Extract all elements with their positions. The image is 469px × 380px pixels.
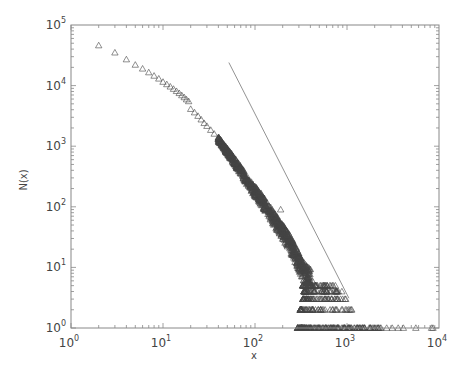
y-axis-label: N(x) [18,169,29,190]
data-point-triangle [123,56,129,62]
tick-label: 103 [46,137,66,153]
tick-label: 101 [151,334,171,350]
tick-label: 100 [59,334,79,350]
tick-label: 104 [46,77,66,93]
data-point-triangle [139,66,145,72]
y-axis-tick-labels: 100101102103104105 [46,16,66,335]
tick-label: 105 [46,16,66,32]
data-point-triangle [201,120,207,126]
data-point-triangle [167,83,173,89]
data-point-triangle [208,127,214,133]
data-point-triangle [112,49,118,55]
data-point-triangle [187,106,193,112]
data-point-triangle [191,109,197,115]
x-axis-tick-labels: 100101102103104 [59,334,447,350]
x-axis-label: x [251,350,257,361]
tick-label: 101 [46,258,66,274]
data-point-triangle [183,96,189,102]
tick-label: 102 [46,198,66,214]
log-log-scatter-chart: 100101102103104 100101102103104105 x N(x… [0,0,469,380]
tick-label: 103 [335,334,355,350]
data-point-triangle [277,206,283,212]
data-point-triangle [151,73,157,79]
plot-frame [71,25,439,328]
data-point-triangle [95,42,101,48]
data-point-triangle [211,131,217,137]
data-points [95,42,436,330]
data-point-triangle [146,69,152,75]
tick-label: 104 [427,334,447,350]
tick-label: 102 [243,334,263,350]
minor-ticks [71,25,439,328]
data-point-triangle [185,98,191,104]
tick-label: 100 [46,319,66,335]
data-point-triangle [132,62,138,68]
